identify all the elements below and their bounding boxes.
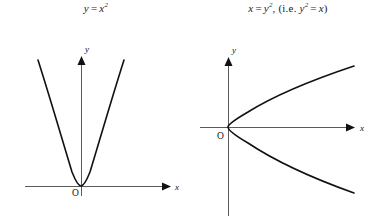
x-axis-label-left: x — [174, 182, 179, 192]
origin-label-left: O — [72, 188, 79, 198]
x-axis-arrow-left — [162, 183, 171, 191]
plot-left: y x O — [0, 0, 192, 216]
x-axis-arrow-right — [346, 124, 355, 132]
x-axis-label-right: x — [359, 123, 364, 133]
y-axis-label-left: y — [84, 44, 89, 54]
figure-panel-right: x=y2, (i.e. y2=x) y x O — [192, 0, 384, 216]
y-axis-label-right: y — [231, 45, 236, 55]
y-axis-arrow-right — [225, 57, 233, 66]
figure-panel-left: y=x2 y x O — [0, 0, 192, 216]
figure-sheet: y=x2 y x O x=y2, (i.e. y2=x) — [0, 0, 384, 216]
y-axis-arrow-left — [78, 56, 86, 65]
plot-right: y x O — [192, 0, 384, 216]
origin-label-right: O — [217, 131, 224, 141]
parabola-curve-right — [228, 66, 354, 193]
